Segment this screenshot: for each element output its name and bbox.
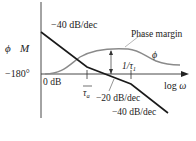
corner-a-denominator: τa <box>83 88 90 99</box>
phase-curve-label: ϕ <box>152 49 157 60</box>
corner-1-label: 1/τ1 <box>122 61 136 72</box>
phase-margin-arrowhead-icon <box>109 50 113 55</box>
final-slope-label: −40 dB/dec <box>112 107 156 117</box>
phase-margin-arrowhead-icon <box>109 69 113 74</box>
slope-leader <box>109 79 114 91</box>
magnitude-axis-label: M <box>19 42 30 54</box>
x-axis-label: log ω <box>164 80 186 91</box>
middle-slope-label: −20 dB/dec <box>96 93 140 103</box>
gain-reference-label: 0 dB <box>43 77 61 87</box>
bode-diagram: ϕ M −40 dB/dec Phase margin ϕ −180° 0 dB… <box>0 0 196 141</box>
phase-axis-label: ϕ <box>5 42 11 54</box>
phase-reference-label: −180° <box>5 68 30 79</box>
axis-arrow-icon <box>181 71 189 77</box>
phase-margin-label: Phase margin <box>131 29 183 39</box>
initial-slope-label: −40 dB/dec <box>51 19 98 30</box>
